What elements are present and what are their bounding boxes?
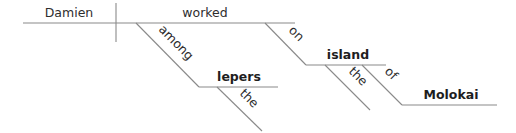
object-molokai-word: Molokai (424, 87, 479, 102)
subject-word: Damien (45, 5, 94, 20)
prep-of-word: of (382, 64, 402, 84)
object-island-word: island (327, 47, 369, 62)
modifier-the-lepers-word: the (237, 86, 262, 111)
sentence-diagram: Damien worked among lepers the on island… (0, 0, 516, 133)
object-lepers-word: lepers (217, 69, 261, 84)
modifier-the-island-word: the (346, 64, 371, 89)
prep-among-word: among (156, 22, 197, 63)
verb-word: worked (182, 5, 227, 20)
prep-on-word: on (286, 23, 308, 45)
